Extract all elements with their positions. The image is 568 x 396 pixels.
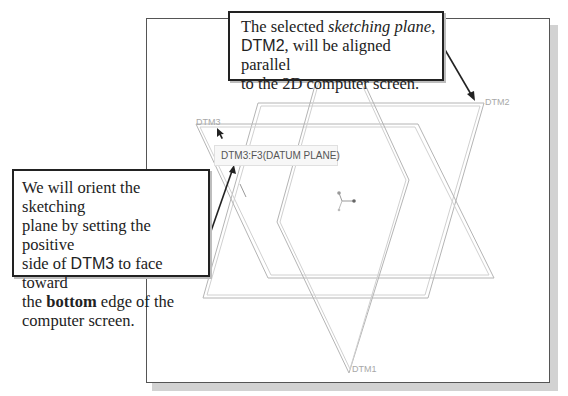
arrowhead-icon xyxy=(229,165,236,174)
callout-text: , xyxy=(431,17,435,36)
callout-text: plane by setting the positive xyxy=(22,216,204,254)
callout-dtm-name: DTM2 xyxy=(241,37,285,54)
mouse-pointer-icon xyxy=(217,128,224,139)
callout-text: The selected xyxy=(241,17,328,36)
datum-label-dtm2: DTM2 xyxy=(485,97,510,107)
callout-text: computer screen. xyxy=(22,311,204,330)
arrowhead-icon xyxy=(467,91,475,101)
callout-arrow-dtm2 xyxy=(444,48,472,96)
callout-sketching-plane: The selected sketching plane, DTM2, will… xyxy=(228,11,444,81)
datum-plane-dtm1[interactable] xyxy=(277,78,409,373)
csys-icon xyxy=(337,191,356,211)
callout-text: edge of the xyxy=(97,292,174,311)
callout-text: We will orient the sketching xyxy=(22,178,204,216)
callout-arrow-dtm3 xyxy=(210,171,232,234)
callout-text: side of xyxy=(22,254,71,273)
callout-dtm-name: DTM3 xyxy=(71,255,115,272)
callout-text: to the 2D computer screen. xyxy=(241,74,436,93)
callout-text: the xyxy=(22,292,46,311)
datum-label-dtm3: DTM3 xyxy=(196,117,221,127)
callout-emphasis: sketching plane xyxy=(328,17,431,36)
normal-tick xyxy=(240,184,246,197)
callout-bold: bottom xyxy=(46,292,96,311)
selection-tooltip: DTM3:F3(DATUM PLANE) xyxy=(214,145,338,166)
callout-orientation: We will orient the sketching plane by se… xyxy=(12,169,210,277)
datum-label-dtm1: DTM1 xyxy=(352,364,377,374)
